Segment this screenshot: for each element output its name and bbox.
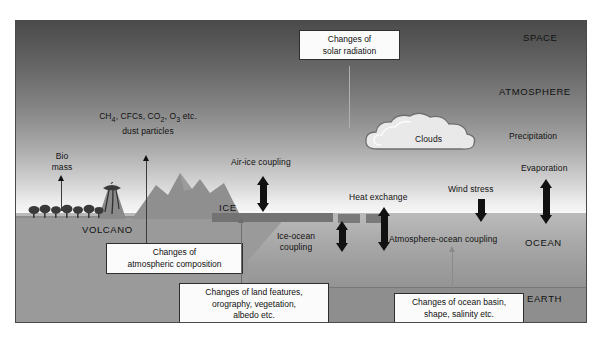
ice-label: ICE xyxy=(219,202,237,213)
ocean-basin-line1: Changes of ocean basin, xyxy=(401,297,517,309)
bio-mass-line1: Bio xyxy=(35,151,89,162)
air-ice-arrow-shaft xyxy=(260,184,267,204)
ghg-dust-particles: dust particles xyxy=(78,126,218,137)
wind-stress-arrow-shaft xyxy=(478,199,485,214)
precipitation-label: Precipitation xyxy=(509,131,557,142)
ice-ocean-arrow-head-down xyxy=(336,243,348,252)
bio-mass-label: Bio mass xyxy=(35,151,89,173)
land-features-arrow-head xyxy=(238,217,244,223)
air-ice-coupling-label: Air-ice coupling xyxy=(231,157,291,168)
volcano-label: VOLCANO xyxy=(82,224,133,235)
evaporation-arrow-head-down xyxy=(540,215,552,224)
callout-ocean-basin[interactable]: Changes of ocean basin, shape, salinity … xyxy=(394,293,524,323)
wind-stress-label: Wind stress xyxy=(448,184,494,195)
clouds-icon xyxy=(361,109,481,157)
ice-ocean-line1: Ice-ocean xyxy=(264,231,328,242)
ice-ocean-line2: coupling xyxy=(264,242,328,253)
zone-label-atmosphere: ATMOSPHERE xyxy=(499,86,571,97)
solar-radiation-leader xyxy=(349,66,350,128)
vegetation-trees-icon xyxy=(28,202,106,218)
clouds-label: Clouds xyxy=(415,134,442,145)
ice-ocean-coupling-label: Ice-ocean coupling xyxy=(264,231,328,253)
diagram-canvas: Clouds SPACE ATMOSPHERE OCEAN EARTH CH4,… xyxy=(0,0,610,342)
volcano-emission-arrow-head xyxy=(143,155,149,161)
callout-solar-radiation[interactable]: Changes of solar radiation xyxy=(299,30,400,60)
bio-mass-line2: mass xyxy=(35,162,89,173)
atmos-comp-line2: atmospheric composition xyxy=(113,259,236,271)
zone-label-ocean: OCEAN xyxy=(525,237,562,248)
land-features-line3: albedo etc. xyxy=(186,310,322,322)
ghg-cfc-co2: , CFCs, CO xyxy=(116,111,161,121)
heat-exchange-arrow-shaft xyxy=(381,215,388,243)
ocean-basin-arrow-head xyxy=(449,246,455,252)
ocean-basin-line2: shape, salinity etc. xyxy=(401,309,517,321)
air-ice-arrow-head-down xyxy=(257,203,269,212)
land-features-line1: Changes of land features, xyxy=(186,287,322,299)
land-features-line2: orography, vegetation, xyxy=(186,299,322,311)
ice-sheet xyxy=(212,213,333,222)
wind-stress-arrow-head xyxy=(475,213,487,222)
ice-ocean-arrow-shaft xyxy=(339,229,346,244)
climate-system-figure: Clouds SPACE ATMOSPHERE OCEAN EARTH CH4,… xyxy=(15,20,587,323)
bio-mass-arrow-shaft xyxy=(61,181,62,211)
heat-exchange-label: Heat exchange xyxy=(349,192,407,203)
ghg-ch4: CH xyxy=(99,111,111,121)
solar-radiation-line1: Changes of xyxy=(306,34,393,46)
solar-radiation-line2: solar radiation xyxy=(306,46,393,58)
callout-land-features[interactable]: Changes of land features, orography, veg… xyxy=(179,283,329,323)
atmos-comp-line1: Changes of xyxy=(113,247,236,259)
land-features-leader xyxy=(241,222,242,283)
ghg-etc: etc. xyxy=(180,111,197,121)
evaporation-label: Evaporation xyxy=(521,163,567,174)
bio-mass-arrow-head xyxy=(58,175,64,181)
ghg-o3: , O xyxy=(165,111,177,121)
zone-label-space: SPACE xyxy=(523,32,558,43)
atmosphere-ocean-coupling-label: Atmosphere-ocean coupling xyxy=(389,234,497,245)
callout-atmospheric-composition[interactable]: Changes of atmospheric composition xyxy=(106,243,243,274)
evaporation-arrow-shaft xyxy=(543,187,550,216)
greenhouse-gases-label: CH4, CFCs, CO2, O3 etc. dust particles xyxy=(78,111,218,137)
ocean-basin-leader xyxy=(452,251,453,293)
zone-label-earth: EARTH xyxy=(527,293,562,304)
